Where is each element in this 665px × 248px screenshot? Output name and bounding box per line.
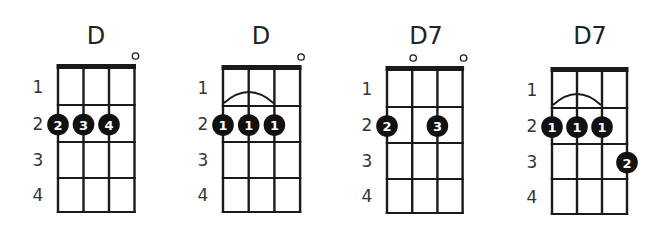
finger-dot: 2 <box>616 152 638 174</box>
chord-chart: D1234234D1234111D7123423D712341112 <box>0 0 665 248</box>
finger-number: 1 <box>270 118 279 133</box>
finger-number: 1 <box>244 118 253 133</box>
chord-diagram-2: D1234111 <box>198 22 305 213</box>
finger-number: 2 <box>622 156 631 171</box>
fret-number-label: 2 <box>33 114 44 134</box>
fret-number-label: 4 <box>362 186 373 206</box>
fret-number-label: 1 <box>33 77 44 97</box>
finger-dot: 3 <box>73 114 95 136</box>
ukulele-chord-diagrams: D1234234D1234111D7123423D712341112 <box>0 0 665 248</box>
finger-dot: 4 <box>98 114 120 136</box>
finger-dot: 2 <box>376 115 398 137</box>
nut <box>551 67 629 72</box>
fret-number-label: 1 <box>362 79 373 99</box>
nut <box>57 64 137 69</box>
fret-number-label: 3 <box>198 150 209 170</box>
open-string-icon <box>460 55 466 61</box>
finger-number: 2 <box>382 119 391 134</box>
finger-dot: 1 <box>541 116 563 138</box>
finger-dot: 1 <box>591 116 613 138</box>
fret-number-label: 4 <box>33 185 44 205</box>
chord-diagram-4: D712341112 <box>527 22 638 215</box>
chord-diagram-3: D7123423 <box>362 22 467 214</box>
fret-number-label: 2 <box>198 114 209 134</box>
open-string-icon <box>410 55 416 61</box>
finger-number: 1 <box>218 118 227 133</box>
fret-number-label: 3 <box>33 150 44 170</box>
finger-number: 1 <box>572 120 581 135</box>
nut <box>222 65 302 70</box>
chord-name: D7 <box>409 22 443 50</box>
finger-dot: 1 <box>212 114 234 136</box>
fret-number-label: 4 <box>527 187 538 207</box>
chord-name: D7 <box>573 22 607 50</box>
finger-number: 4 <box>104 118 113 133</box>
finger-number: 3 <box>79 118 88 133</box>
fret-number-label: 3 <box>527 152 538 172</box>
chord-diagram-1: D1234234 <box>33 22 139 213</box>
fret-number-label: 1 <box>527 80 538 100</box>
open-string-icon <box>132 53 138 59</box>
finger-number: 1 <box>547 120 556 135</box>
finger-dot: 1 <box>238 114 260 136</box>
finger-number: 3 <box>433 119 442 134</box>
finger-number: 2 <box>53 118 62 133</box>
fret-number-label: 1 <box>198 78 209 98</box>
chord-name: D <box>87 22 105 50</box>
open-string-icon <box>298 54 304 60</box>
fret-number-label: 3 <box>362 151 373 171</box>
nut <box>386 66 465 71</box>
finger-dot: 1 <box>264 114 286 136</box>
finger-number: 1 <box>597 120 606 135</box>
finger-dot: 1 <box>566 116 588 138</box>
fret-number-label: 2 <box>527 116 538 136</box>
chord-name: D <box>252 22 270 50</box>
fret-number-label: 4 <box>198 185 209 205</box>
finger-dot: 2 <box>47 114 69 136</box>
fret-number-label: 2 <box>362 115 373 135</box>
finger-dot: 3 <box>427 115 449 137</box>
